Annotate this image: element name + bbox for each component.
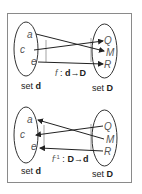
set-d-ellipse — [14, 22, 38, 76]
mapping-diagrams: a c e Q M R f : d→D set d set D a c e Q … — [0, 0, 142, 194]
element-c: c — [20, 44, 25, 55]
element-c: c — [20, 129, 25, 140]
set-d-ellipse — [14, 107, 38, 163]
element-a: a — [27, 114, 33, 125]
element-a: a — [27, 29, 33, 40]
element-e: e — [31, 56, 37, 67]
diagram-f: a c e Q M R f : d→D set d set D — [14, 22, 117, 93]
set-d-label: set d — [21, 81, 41, 91]
set-d-label: set d — [21, 166, 41, 176]
element-M: M — [106, 134, 115, 145]
element-Q: Q — [104, 121, 112, 132]
element-Q: Q — [104, 35, 112, 46]
element-R: R — [104, 59, 111, 70]
element-e: e — [31, 141, 37, 152]
arrow-Q-to-c — [36, 126, 103, 135]
diagram-f-inverse: a c e Q M R f-1 : D→d set d set D — [14, 107, 117, 179]
element-M: M — [106, 47, 115, 58]
element-R: R — [104, 146, 111, 157]
function-label-f-inverse: f-1 : D→d — [52, 154, 88, 164]
set-D-label: set D — [92, 83, 114, 93]
function-label-f: f : d→D — [55, 68, 87, 78]
set-D-label: set D — [92, 169, 114, 179]
